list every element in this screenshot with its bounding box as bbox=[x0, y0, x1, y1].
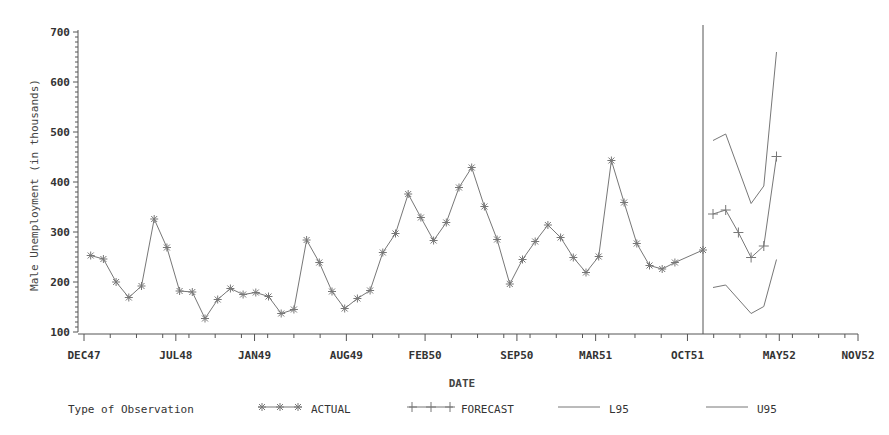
star-marker bbox=[557, 234, 565, 242]
star-marker bbox=[506, 280, 514, 288]
star-marker bbox=[455, 184, 463, 192]
x-tick-label: DEC47 bbox=[67, 349, 100, 362]
star-marker bbox=[480, 203, 488, 211]
star-marker bbox=[646, 262, 654, 270]
star-marker bbox=[404, 190, 412, 198]
legend-title: Type of Observation bbox=[68, 403, 194, 416]
x-tick-label: JUL48 bbox=[159, 349, 192, 362]
star-marker bbox=[620, 199, 628, 207]
star-marker bbox=[442, 219, 450, 227]
legend-label-actual: ACTUAL bbox=[311, 403, 351, 416]
star-marker bbox=[258, 403, 266, 411]
star-marker bbox=[468, 164, 476, 172]
legend: Type of Observation ACTUAL FORECAST L95 … bbox=[68, 402, 777, 416]
star-marker bbox=[163, 244, 171, 252]
star-marker bbox=[353, 295, 361, 303]
star-marker bbox=[138, 282, 146, 290]
series-forecast bbox=[708, 152, 782, 263]
star-marker bbox=[493, 236, 501, 244]
star-marker bbox=[294, 403, 302, 411]
star-marker bbox=[176, 287, 184, 295]
star-marker bbox=[125, 294, 133, 302]
star-marker bbox=[214, 296, 222, 304]
star-marker bbox=[239, 291, 247, 299]
star-marker bbox=[699, 246, 707, 254]
star-marker bbox=[252, 289, 260, 297]
star-marker bbox=[430, 237, 438, 245]
star-marker bbox=[366, 287, 374, 295]
plus-marker bbox=[721, 205, 731, 215]
star-marker bbox=[341, 305, 349, 313]
x-tick-label: NOV52 bbox=[841, 349, 874, 362]
x-axis: DEC47JUL48JAN49AUG49FEB50SEP50MAR51OCT51… bbox=[67, 334, 874, 362]
y-tick-label: 200 bbox=[50, 276, 70, 289]
series-l95 bbox=[713, 260, 777, 314]
plus-marker bbox=[772, 152, 782, 162]
unemployment-forecast-chart: 100200300400500600700 DEC47JUL48JAN49AUG… bbox=[0, 0, 889, 435]
star-marker bbox=[315, 259, 323, 267]
star-marker bbox=[150, 215, 158, 223]
star-marker bbox=[607, 157, 615, 165]
legend-label-u95: U95 bbox=[757, 403, 777, 416]
y-axis: 100200300400500600700 bbox=[50, 26, 78, 339]
x-tick-label: SEP50 bbox=[500, 349, 533, 362]
y-tick-label: 300 bbox=[50, 226, 70, 239]
plus-marker bbox=[426, 402, 436, 412]
star-marker bbox=[188, 288, 196, 296]
star-marker bbox=[379, 249, 387, 257]
star-marker bbox=[277, 310, 285, 318]
y-tick-label: 600 bbox=[50, 76, 70, 89]
legend-item-actual bbox=[258, 403, 302, 411]
star-marker bbox=[671, 259, 679, 267]
plus-marker bbox=[407, 402, 417, 412]
legend-label-l95: L95 bbox=[609, 403, 629, 416]
x-axis-title: DATE bbox=[449, 377, 476, 390]
y-tick-label: 700 bbox=[50, 26, 70, 39]
series-u95 bbox=[713, 52, 777, 204]
star-marker bbox=[569, 254, 577, 262]
star-marker bbox=[531, 238, 539, 246]
x-tick-label: MAY52 bbox=[763, 349, 796, 362]
y-tick-label: 500 bbox=[50, 126, 70, 139]
star-marker bbox=[392, 230, 400, 238]
star-marker bbox=[328, 288, 336, 296]
x-tick-label: AUG49 bbox=[330, 349, 363, 362]
star-marker bbox=[87, 252, 95, 260]
star-marker bbox=[519, 256, 527, 264]
series-layer bbox=[87, 52, 782, 323]
star-marker bbox=[595, 253, 603, 261]
legend-label-forecast: FORECAST bbox=[461, 403, 514, 416]
plus-marker bbox=[708, 209, 718, 219]
star-marker bbox=[303, 236, 311, 244]
star-marker bbox=[290, 306, 298, 314]
plus-marker bbox=[445, 402, 455, 412]
star-marker bbox=[633, 240, 641, 248]
star-marker bbox=[544, 221, 552, 229]
y-tick-label: 400 bbox=[50, 176, 70, 189]
star-marker bbox=[99, 255, 107, 263]
star-marker bbox=[226, 285, 234, 293]
y-tick-label: 100 bbox=[50, 326, 70, 339]
x-tick-label: JAN49 bbox=[238, 349, 271, 362]
x-tick-label: FEB50 bbox=[409, 349, 442, 362]
legend-item-forecast bbox=[407, 402, 455, 412]
star-marker bbox=[276, 403, 284, 411]
star-marker bbox=[582, 269, 590, 277]
star-marker bbox=[417, 214, 425, 222]
x-tick-label: OCT51 bbox=[671, 349, 704, 362]
x-tick-label: MAR51 bbox=[579, 349, 612, 362]
star-marker bbox=[658, 265, 666, 273]
star-marker bbox=[112, 278, 120, 286]
star-marker bbox=[201, 315, 209, 323]
y-axis-title: Male Unemployment (in thousands) bbox=[28, 79, 41, 291]
star-marker bbox=[265, 293, 273, 301]
plus-marker bbox=[733, 228, 743, 238]
series-actual bbox=[87, 157, 707, 323]
